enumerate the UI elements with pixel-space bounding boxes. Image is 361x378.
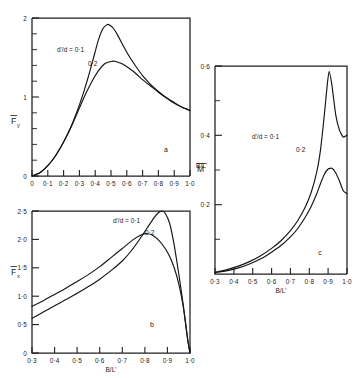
panel-a-x-ticks <box>32 170 190 176</box>
panel-a-ytick-1: 1 <box>23 94 27 101</box>
panel-b-xtick-6: 0·9 <box>163 357 173 364</box>
panel-a-xtick-8: 0·8 <box>154 180 164 187</box>
figure-container: 2 1 0 0 0·1 0·2 0·3 0·4 0·5 0·6 0·7 0·8 … <box>0 0 361 378</box>
panel-b-x-ticks <box>32 347 190 353</box>
panel-c-ytick-2: 0·6 <box>200 63 210 70</box>
panel-b-xtick-2: 0·5 <box>72 357 82 364</box>
panel-c-series-0-label: d'/d = 0·1 <box>252 133 279 140</box>
panel-b-ytick-1: 0·5 <box>17 321 27 328</box>
panel-c-ytick-1: 0·4 <box>200 132 210 139</box>
panel-b: 2·5 2·0 1·5 1·0 0·5 0 0·3 0·4 0·5 0·6 0·… <box>11 208 196 374</box>
panel-c-xtick-1: 0·4 <box>229 278 239 285</box>
panel-b-curve-0 <box>32 211 190 353</box>
panel-c-xtick-6: 0·9 <box>323 278 333 285</box>
panel-c: 0·6 0·4 0·2 0·3 0·4 0·5 0·6 0·7 0·8 0·9 … <box>197 63 353 295</box>
panel-b-frame <box>32 211 190 353</box>
panel-a-xtick-3: 0·3 <box>75 180 85 187</box>
panel-c-y-major-ticks <box>215 66 222 205</box>
panel-a-curve-0 <box>32 24 190 176</box>
panel-b-ytick-5: 2·5 <box>17 208 27 215</box>
panel-b-xtick-5: 0·8 <box>140 357 150 364</box>
panel-a-series-0-label: d'/d = 0·1 <box>57 46 84 53</box>
panel-b-ytick-0: 0 <box>23 350 27 357</box>
panel-c-xtick-5: 0·8 <box>305 278 315 285</box>
panel-a-label: a <box>164 146 168 153</box>
panel-c-curve-0 <box>215 71 347 272</box>
panel-b-curve-1 <box>32 234 190 353</box>
panel-b-ylabel-main: F <box>11 267 16 277</box>
panel-c-y-minor-ticks <box>215 101 220 240</box>
panel-b-ytick-3: 1·5 <box>17 264 27 271</box>
panel-b-xtick-3: 0·6 <box>95 357 105 364</box>
panel-c-ylabel-main: M <box>197 164 204 174</box>
panel-c-series-1-label: 0·2 <box>296 146 306 153</box>
panel-a-xtick-2: 0·2 <box>59 180 69 187</box>
panel-b-xtick-0: 0·3 <box>27 357 37 364</box>
panel-a-xtick-1: 0·1 <box>43 180 53 187</box>
panel-c-xtick-7: 1·0 <box>342 278 352 285</box>
panel-b-xtick-1: 0·4 <box>50 357 60 364</box>
panel-a-y-major-ticks <box>32 18 39 176</box>
figure-svg: 2 1 0 0 0·1 0·2 0·3 0·4 0·5 0·6 0·7 0·8 … <box>0 0 361 378</box>
panel-b-xlabel: B/L' <box>105 366 116 373</box>
panel-b-y-major-ticks <box>32 211 39 353</box>
panel-c-curve-1 <box>215 168 347 272</box>
panel-b-ytick-2: 1·0 <box>17 293 27 300</box>
panel-c-xtick-2: 0·5 <box>248 278 258 285</box>
panel-a: 2 1 0 0 0·1 0·2 0·3 0·4 0·5 0·6 0·7 0·8 … <box>11 15 208 188</box>
panel-c-xtick-0: 0·3 <box>210 278 220 285</box>
panel-a-xtick-9: 0·9 <box>169 180 179 187</box>
panel-a-xtick-10: 1·0 <box>185 180 195 187</box>
panel-c-ytick-0: 0·2 <box>200 201 210 208</box>
panel-a-ytick-0: 0 <box>23 173 27 180</box>
panel-b-axes <box>32 211 190 353</box>
panel-a-ylabel-main: F <box>11 116 16 126</box>
panel-b-xtick-7: 1·0 <box>185 357 195 364</box>
panel-b-series-0-label: d'/d = 0·1 <box>113 217 140 224</box>
panel-a-ytick-2: 2 <box>23 15 27 22</box>
panel-a-xtick-7: 0·7 <box>138 180 148 187</box>
panel-c-label: c <box>318 249 322 256</box>
panel-c-xtick-4: 0·7 <box>286 278 296 285</box>
panel-c-xtick-3: 0·6 <box>267 278 277 285</box>
panel-a-xtick-6: 0·6 <box>122 180 132 187</box>
panel-b-label: b <box>150 321 154 328</box>
panel-a-curve-1 <box>32 61 190 176</box>
panel-b-ytick-4: 2·0 <box>17 236 27 243</box>
panel-a-ylabel-subscript: y <box>17 122 20 128</box>
panel-b-ylabel-subscript: x <box>17 273 20 279</box>
panel-b-xtick-4: 0·7 <box>118 357 128 364</box>
panel-a-xtick-4: 0·4 <box>90 180 100 187</box>
panel-a-xtick-5: 0·5 <box>106 180 116 187</box>
panel-a-xtick-0: 0 <box>30 180 34 187</box>
panel-a-ylabel: F y <box>11 116 21 129</box>
panel-c-xlabel: B/L' <box>275 287 286 294</box>
